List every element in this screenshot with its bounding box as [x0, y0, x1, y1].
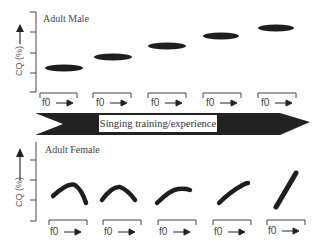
male-arrow-icon: [16, 24, 24, 44]
female-f0-label-3: f0: [159, 226, 167, 237]
male-f0-label-3: f0: [151, 97, 159, 108]
female-f0-arrows: [64, 228, 299, 235]
female-y-label: CQ (%): [14, 175, 24, 209]
female-f0-label-4: f0: [214, 226, 222, 237]
male-f0-arrows: [56, 100, 292, 106]
male-y-axis: [30, 12, 36, 92]
female-f0-brackets: [49, 220, 305, 225]
female-f0-label-5: f0: [268, 225, 276, 236]
male-f0-label-1: f0: [42, 97, 50, 108]
male-panel-title: Adult Male: [43, 13, 89, 24]
male-y-label: CQ (%): [14, 44, 24, 78]
male-f0-label-5: f0: [261, 97, 269, 108]
training-banner-label: Singing training/experience: [99, 115, 217, 132]
male-f0-label-4: f0: [206, 97, 214, 108]
female-f0-label-1: f0: [50, 226, 58, 237]
female-cq-curves: [53, 173, 296, 207]
male-f0-label-2: f0: [96, 97, 104, 108]
female-f0-label-2: f0: [104, 226, 112, 237]
female-y-axis: [30, 142, 36, 221]
female-panel-title: Adult Female: [45, 144, 100, 155]
male-cq-ellipses: [45, 25, 294, 72]
male-f0-brackets: [40, 93, 296, 98]
